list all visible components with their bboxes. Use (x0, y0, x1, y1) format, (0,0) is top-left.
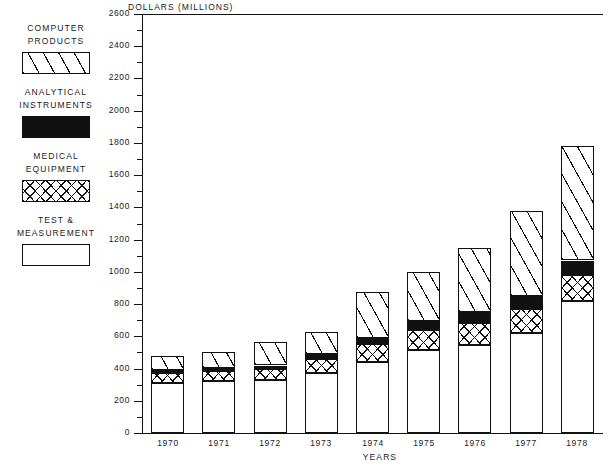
x-axis-tick-label-1970: 1970 (145, 438, 191, 448)
y-axis-tick-label: 1400 (96, 201, 130, 211)
y-axis-minor-tick (137, 417, 142, 418)
x-axis-tick-label-1975: 1975 (401, 438, 447, 448)
y-axis-major-tick (134, 207, 142, 208)
y-axis-minor-tick (137, 288, 142, 289)
bar-1977 (510, 14, 543, 433)
bar-segment-medical-1977 (510, 309, 543, 333)
y-axis-major-tick (134, 46, 142, 47)
legend-swatch-medical-equipment (22, 180, 90, 202)
bar-segment-analytical-1971 (202, 368, 235, 372)
bar-1974 (356, 14, 389, 433)
y-axis-minor-tick (137, 159, 142, 160)
y-axis-tick-label: 2000 (96, 105, 130, 115)
bar-1971 (202, 14, 235, 433)
y-axis-tick-label: 1600 (96, 169, 130, 179)
bar-segment-medical-1974 (356, 344, 389, 362)
y-axis-major-tick (134, 272, 142, 273)
x-axis-tick-label-1977: 1977 (503, 438, 549, 448)
bar-segment-computer-1977 (510, 211, 543, 296)
x-axis-line (142, 433, 603, 434)
bar-segment-test-1974 (356, 362, 389, 433)
bar-segment-analytical-1974 (356, 338, 389, 344)
bar-segment-analytical-1972 (254, 366, 287, 370)
bar-segment-analytical-1973 (305, 354, 338, 359)
y-axis-major-tick (134, 401, 142, 402)
y-axis-major-tick (134, 14, 142, 15)
bar-segment-medical-1970 (151, 373, 184, 383)
bar-segment-analytical-1976 (458, 312, 491, 323)
bar-segment-test-1977 (510, 333, 543, 433)
y-axis-major-tick (134, 433, 142, 434)
bar-1972 (254, 14, 287, 433)
bar-segment-computer-1978 (561, 146, 594, 260)
x-axis-title: YEARS (160, 452, 600, 462)
bar-segment-computer-1975 (407, 272, 440, 321)
bar-1975 (407, 14, 440, 433)
legend-swatch-computer-products (22, 52, 90, 74)
bar-1978 (561, 14, 594, 433)
bar-segment-analytical-1970 (151, 370, 184, 373)
bar-segment-medical-1975 (407, 330, 440, 350)
y-axis-minor-tick (137, 127, 142, 128)
stacked-bar-chart: COMPUTER PRODUCTS ANALYTICAL INSTRUMENTS… (0, 0, 612, 470)
x-axis-tick-label-1978: 1978 (554, 438, 600, 448)
y-axis-major-tick (134, 336, 142, 337)
x-axis-tick-label-1974: 1974 (350, 438, 396, 448)
bar-segment-computer-1974 (356, 292, 389, 338)
bar-segment-analytical-1975 (407, 321, 440, 330)
y-axis-minor-tick (137, 191, 142, 192)
y-axis-minor-tick (137, 385, 142, 386)
y-axis-tick-label: 1000 (96, 266, 130, 276)
x-axis-tick-label-1971: 1971 (196, 438, 242, 448)
legend-swatch-analytical-instruments (22, 116, 90, 138)
bar-segment-test-1972 (254, 380, 287, 433)
bar-segment-computer-1976 (458, 248, 491, 313)
x-axis-tick-label-1972: 1972 (247, 438, 293, 448)
bar-segment-test-1975 (407, 350, 440, 433)
y-axis-tick-label: 2200 (96, 72, 130, 82)
bar-segment-test-1976 (458, 345, 491, 433)
y-axis-tick-label: 200 (96, 395, 130, 405)
bar-segment-medical-1972 (254, 369, 287, 380)
y-axis-major-tick (134, 240, 142, 241)
y-axis-major-tick (134, 111, 142, 112)
y-axis-tick-label: 1200 (96, 234, 130, 244)
bar-segment-test-1978 (561, 301, 594, 433)
y-axis-minor-tick (137, 352, 142, 353)
bar-segment-computer-1971 (202, 352, 235, 368)
bar-segment-medical-1973 (305, 359, 338, 373)
y-axis-minor-tick (137, 30, 142, 31)
y-axis-minor-tick (137, 95, 142, 96)
bar-segment-test-1973 (305, 373, 338, 433)
bar-segment-test-1970 (151, 383, 184, 433)
y-axis-tick-label: 2400 (96, 40, 130, 50)
y-axis-tick-label: 600 (96, 330, 130, 340)
y-axis-major-tick (134, 304, 142, 305)
bar-1973 (305, 14, 338, 433)
bar-segment-medical-1978 (561, 275, 594, 301)
y-axis-major-tick (134, 143, 142, 144)
y-axis-tick-label: 0 (96, 427, 130, 437)
bar-segment-analytical-1978 (561, 261, 594, 276)
x-axis-tick-label-1976: 1976 (452, 438, 498, 448)
y-axis-tick-label: 800 (96, 298, 130, 308)
bar-segment-medical-1976 (458, 323, 491, 346)
y-axis-tick-label: 400 (96, 363, 130, 373)
y-axis-title: DOLLARS (MILLIONS) (128, 2, 233, 12)
x-axis-tick-label-1973: 1973 (298, 438, 344, 448)
bar-segment-test-1971 (202, 381, 235, 433)
bar-segment-computer-1972 (254, 342, 287, 365)
bar-1970 (151, 14, 184, 433)
bar-1976 (458, 14, 491, 433)
y-axis-major-tick (134, 78, 142, 79)
y-axis-minor-tick (137, 320, 142, 321)
legend-swatch-test-measurement (22, 244, 90, 266)
bar-segment-computer-1970 (151, 356, 184, 371)
y-axis-minor-tick (137, 224, 142, 225)
bar-segment-computer-1973 (305, 332, 338, 354)
y-axis-minor-tick (137, 62, 142, 63)
y-axis-line (142, 14, 143, 434)
bar-segment-analytical-1977 (510, 296, 543, 309)
y-axis-tick-label: 1800 (96, 137, 130, 147)
bar-segment-medical-1971 (202, 371, 235, 381)
